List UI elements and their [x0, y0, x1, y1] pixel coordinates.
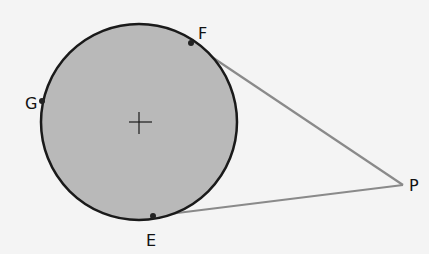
tangent-circle-diagram: F G E P	[0, 0, 429, 254]
point-E	[150, 213, 156, 219]
label-P: P	[409, 176, 419, 195]
label-F: F	[198, 24, 207, 43]
point-G	[39, 98, 45, 104]
point-F	[188, 40, 194, 46]
label-G: G	[25, 94, 37, 113]
label-E: E	[146, 231, 156, 250]
